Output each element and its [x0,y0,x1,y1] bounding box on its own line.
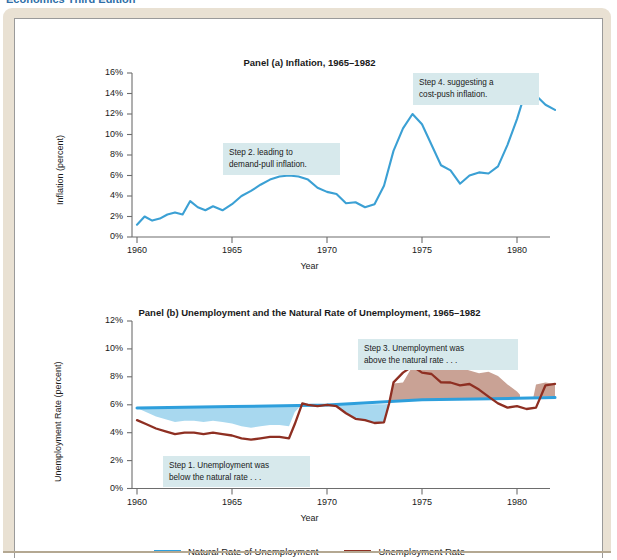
panel-a-ytick-6: 12% [79,108,123,118]
panel-b-ytick-6: 12% [79,315,123,325]
panel-a-ytick-2: 4% [79,190,123,200]
panel-a-ytick-7: 14% [79,88,123,98]
panel-a-x-ticks [137,237,517,243]
panel-a-ytick-5: 10% [79,129,123,139]
panel-b-ytick-5: 10% [79,343,123,353]
panel-a-xtick-0: 1960 [112,245,162,255]
figure-outer-frame: Panel (a) Inflation, 1965–1982 [3,8,611,553]
panel-a-callout-step4: Step 4. suggesting a cost-push inflation… [413,73,539,105]
panel-b-ytick-0: 0% [79,483,123,493]
panel-b-xtick-0: 1960 [112,497,162,507]
panel-a-xtick-3: 1975 [397,245,447,255]
panel-b-xtick-3: 1975 [397,497,447,507]
panel-a-xtick-1: 1965 [207,245,257,255]
panel-a-chart: 0% 2% 4% 6% 8% 10% 12% 14% 16% 1960 1965… [15,67,604,272]
panel-b-callout-step1: Step 1. Unemployment was below the natur… [163,456,310,487]
panel-b-ytick-4: 8% [79,371,123,381]
panel-a-ytick-4: 8% [79,149,123,159]
panel-a-y-ticks [127,73,132,237]
panel-a-y-axis-title: Inflation (percent) [55,135,65,205]
panel-b-ytick-3: 6% [79,399,123,409]
panel-a-xtick-2: 1970 [302,245,352,255]
running-head-text: Economics Third Edition [6,0,136,5]
panel-a-ytick-8: 16% [79,67,123,77]
panel-b-x-ticks [137,489,517,495]
panel-b-xtick-2: 1970 [302,497,352,507]
panel-b-chart: 0% 2% 4% 6% 8% 10% 12% 1960 1965 1970 19… [15,317,604,527]
panel-b-ytick-2: 4% [79,427,123,437]
panel-a-ytick-3: 6% [79,170,123,180]
panel-b-y-ticks [127,321,132,489]
figure-inner-panel: Panel (a) Inflation, 1965–1982 [14,18,603,558]
inflation-line [137,88,555,224]
panel-a-xtick-4: 1980 [492,245,542,255]
panel-a-ytick-0: 0% [79,231,123,241]
panel-b-callout-step3: Step 3. Unemployment was above the natur… [358,339,518,370]
panel-a-ytick-1: 2% [79,211,123,221]
panel-b-x-axis-title: Year [15,513,604,523]
panel-a-callout-step2: Step 2. leading to demand-pull inflation… [223,143,340,175]
figure-bottom-rule [3,551,611,553]
panel-b-xtick-4: 1980 [492,497,542,507]
panel-b-xtick-1: 1965 [207,497,257,507]
panel-b-ytick-1: 2% [79,455,123,465]
figure-page: Economics Third Edition Panel (a) Inflat… [0,0,617,560]
panel-a-x-axis-title: Year [15,261,604,271]
panel-b-y-axis-title: Unemployment Rate (percent) [53,361,63,482]
